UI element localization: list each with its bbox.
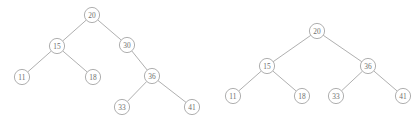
tree-node[interactable]: 30 <box>119 37 134 52</box>
tree-edge <box>63 20 87 41</box>
tree-node[interactable]: 33 <box>328 88 343 103</box>
node-label: 20 <box>313 27 321 36</box>
tree-node[interactable]: 33 <box>114 99 129 114</box>
tree-edge <box>127 81 146 101</box>
panel-right-tree-nodes: 20153611183341 <box>225 23 410 103</box>
node-label: 15 <box>53 42 61 51</box>
node-label: 41 <box>399 92 407 101</box>
tree-edge <box>273 71 296 91</box>
tree-node[interactable]: 15 <box>49 38 64 53</box>
node-label: 15 <box>263 62 271 71</box>
tree-edge <box>98 20 121 40</box>
node-label: 20 <box>88 11 96 20</box>
tree-node[interactable]: 41 <box>395 88 410 103</box>
node-label: 41 <box>188 103 196 112</box>
panel-left-tree-edges <box>28 20 186 102</box>
tree-edge <box>273 35 311 61</box>
node-label: 18 <box>298 92 306 101</box>
tree-node[interactable]: 20 <box>309 23 324 38</box>
node-label: 33 <box>118 103 126 112</box>
node-label: 36 <box>148 72 156 81</box>
tree-edge <box>374 71 397 91</box>
tree-edge <box>342 71 363 91</box>
tree-edge <box>28 51 52 72</box>
tree-edge <box>323 35 361 61</box>
tree-node[interactable]: 20 <box>84 7 99 22</box>
tree-node[interactable]: 36 <box>360 58 375 73</box>
tree-node[interactable]: 41 <box>184 99 199 114</box>
tree-node[interactable]: 36 <box>144 68 159 83</box>
tree-node[interactable]: 11 <box>225 88 240 103</box>
panel-left-tree-nodes: 2015301118363341 <box>14 7 199 114</box>
tree-diagram-canvas: 201530111836334120153611183341 <box>0 0 420 129</box>
tree-node[interactable]: 11 <box>14 69 29 84</box>
tree-edge <box>132 51 147 70</box>
node-label: 18 <box>89 73 97 82</box>
binary-tree-figure: 201530111836334120153611183341 <box>0 0 420 129</box>
node-label: 11 <box>229 92 237 101</box>
tree-edge <box>63 51 87 72</box>
edges-layer <box>28 20 398 102</box>
tree-node[interactable]: 15 <box>259 58 274 73</box>
node-label: 11 <box>18 73 26 82</box>
node-label: 36 <box>364 62 372 71</box>
tree-node[interactable]: 18 <box>85 69 100 84</box>
node-label: 33 <box>332 92 340 101</box>
tree-edge <box>239 71 262 91</box>
tree-node[interactable]: 18 <box>294 88 309 103</box>
node-label: 30 <box>123 41 131 50</box>
tree-edge <box>158 81 186 103</box>
